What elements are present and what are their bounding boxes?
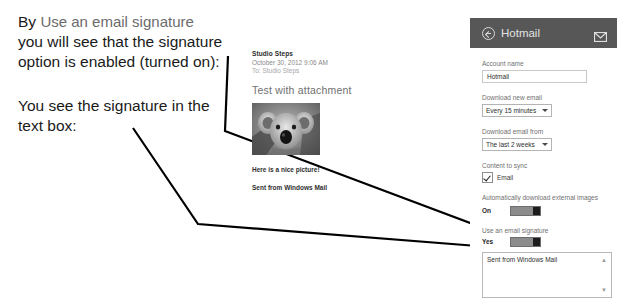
- auto-download-images-state: On: [482, 207, 510, 214]
- screenshot-root: By Use an email signature you will see t…: [0, 0, 621, 302]
- chevron-down-icon: [542, 143, 548, 146]
- signature-textarea-value: Sent from Windows Mail: [483, 253, 611, 263]
- signature-textarea[interactable]: Sent from Windows Mail ▲ ▼: [482, 252, 612, 298]
- auto-download-images-group: Automatically download external images O…: [482, 194, 605, 216]
- toggle-thumb: [533, 207, 540, 215]
- back-arrow-icon[interactable]: [482, 27, 495, 40]
- email-body-text: Here is a nice picture!: [252, 166, 432, 173]
- email-signature-text: Sent from Windows Mail: [252, 184, 432, 191]
- auto-download-images-toggle-row[interactable]: On: [482, 206, 605, 216]
- toggle-thumb: [533, 238, 540, 246]
- chevron-down-icon[interactable]: ▼: [601, 287, 607, 293]
- annotation-line-2: you will see that the signature: [18, 32, 222, 52]
- use-email-signature-label: Use an email signature: [482, 227, 605, 234]
- download-email-from-select[interactable]: The last 2 weeks: [482, 138, 552, 151]
- download-new-email-value: Every 15 minutes: [486, 107, 536, 114]
- content-to-sync-email-row[interactable]: Email: [482, 172, 605, 183]
- download-email-from-label: Download email from: [482, 128, 605, 135]
- annotation-prefix: By: [18, 13, 36, 30]
- account-name-label: Account name: [482, 60, 605, 67]
- download-email-from-value: The last 2 weeks: [486, 141, 535, 148]
- account-name-group: Account name Hotmail: [482, 60, 605, 83]
- settings-header: Hotmail: [470, 18, 617, 48]
- auto-download-images-toggle[interactable]: [510, 206, 541, 216]
- content-to-sync-label: Content to sync: [482, 162, 605, 169]
- annotation-line-1: By Use an email signature: [18, 12, 194, 32]
- download-email-from-group: Download email from The last 2 weeks: [482, 128, 605, 151]
- use-email-signature-state: Yes: [482, 238, 510, 245]
- auto-download-images-label: Automatically download external images: [482, 194, 605, 203]
- annotation-line-3: option is enabled (turned on):: [18, 52, 220, 72]
- email-recipient: To: Studio Steps: [252, 67, 432, 74]
- chevron-down-icon: [542, 109, 548, 112]
- use-email-signature-group: Use an email signature Yes Sent from Win…: [482, 227, 605, 298]
- koala-photo: [252, 103, 320, 155]
- use-email-signature-toggle[interactable]: [510, 237, 541, 247]
- annotation-line-4: You see the signature in the: [18, 96, 210, 116]
- chevron-up-icon[interactable]: ▲: [601, 257, 607, 263]
- download-new-email-group: Download new email Every 15 minutes: [482, 94, 605, 117]
- settings-body: Account name Hotmail Download new email …: [470, 48, 617, 298]
- email-sender: Studio Steps: [252, 50, 432, 57]
- email-checkbox[interactable]: [482, 172, 493, 183]
- content-to-sync-group: Content to sync Email: [482, 162, 605, 183]
- annotation-line-5: text box:: [18, 116, 77, 136]
- email-date: October 30, 2012 9:06 AM: [252, 59, 432, 66]
- account-name-input[interactable]: Hotmail: [482, 70, 587, 83]
- download-new-email-select[interactable]: Every 15 minutes: [482, 104, 552, 117]
- annotation-quoted-setting: Use an email signature: [40, 13, 193, 30]
- settings-title: Hotmail: [501, 27, 540, 39]
- use-email-signature-toggle-row[interactable]: Yes: [482, 237, 605, 247]
- envelope-icon[interactable]: [594, 28, 607, 38]
- account-settings-pane: Hotmail Account name Hotmail Download ne…: [470, 18, 617, 300]
- email-subject: Test with attachment: [252, 84, 432, 96]
- download-new-email-label: Download new email: [482, 94, 605, 101]
- email-checkbox-label: Email: [497, 174, 513, 181]
- email-preview: Studio Steps October 30, 2012 9:06 AM To…: [252, 50, 432, 191]
